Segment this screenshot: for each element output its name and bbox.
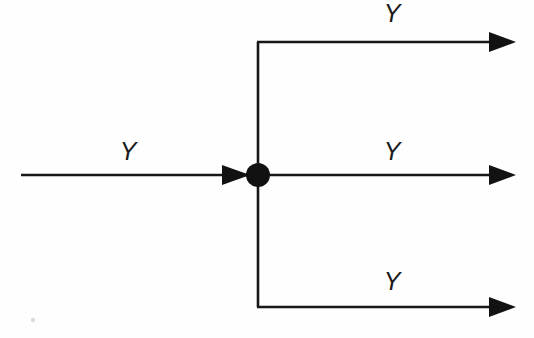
output-middle-label: Y (384, 137, 403, 165)
output-branch-top: Y (257, 0, 516, 52)
output-middle-arrowhead-icon (489, 165, 516, 185)
output-branch-bottom: Y (257, 267, 516, 317)
input-arrowhead-icon (222, 165, 250, 185)
output-top-label: Y (384, 0, 403, 27)
output-bottom-label: Y (384, 267, 403, 295)
output-branch-middle: Y (266, 137, 516, 185)
output-bottom-arrowhead-icon (489, 297, 516, 317)
output-top-arrowhead-icon (489, 32, 516, 52)
input-label: Y (120, 137, 139, 165)
scan-speck-artifact (31, 318, 35, 322)
input-branch: Y (21, 137, 250, 185)
fanout-diagram: Y Y Y Y (0, 0, 534, 338)
fanout-junction-node (246, 163, 270, 187)
diagram-canvas: Y Y Y Y (0, 0, 534, 338)
